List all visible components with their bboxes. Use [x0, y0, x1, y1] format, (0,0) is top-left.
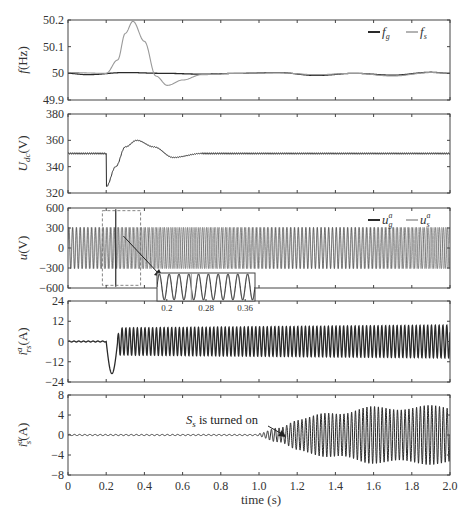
y-tick-label: 4 [58, 408, 64, 422]
axes-frame [68, 20, 450, 100]
y-tick-label: 600 [46, 201, 64, 215]
x-tick-label: 1.8 [404, 479, 419, 493]
series-f_s [68, 21, 450, 85]
inset-x-tick-label: 0.2 [161, 303, 172, 313]
series-i_rs [68, 325, 450, 373]
y-tick-label: 50.1 [43, 40, 64, 54]
y-axis-label: u(V) [15, 236, 30, 261]
y-tick-label: 8 [58, 388, 64, 402]
x-tick-label: 0 [65, 479, 71, 493]
series-i_s [68, 405, 450, 464]
y-tick-label: −600 [39, 281, 64, 295]
y-tick-label: 12 [52, 314, 64, 328]
y-tick-label: 380 [46, 107, 64, 121]
subplot-5: Ss is turned on840−4−8ias(A) [14, 388, 450, 482]
x-axis-label: time (s) [241, 492, 281, 507]
series-U_dc [68, 140, 450, 186]
y-tick-label: 0 [58, 428, 64, 442]
legend-f_s: fs [420, 24, 427, 41]
y-tick-label: 300 [46, 221, 64, 235]
y-tick-label: −8 [51, 468, 64, 482]
x-tick-label: 0.6 [175, 479, 190, 493]
x-tick-label: 1.0 [252, 479, 267, 493]
y-tick-label: −300 [39, 261, 64, 275]
plot-area [68, 325, 450, 373]
y-tick-label: 50.2 [43, 13, 64, 27]
legend-f_g: fg [382, 24, 390, 41]
x-tick-label: 0.2 [99, 479, 114, 493]
y-axis-label: Udc(V) [15, 136, 32, 172]
x-tick-label: 1.6 [366, 479, 381, 493]
annotation-ss-turned-on: Ss is turned on [186, 413, 259, 429]
subplot-4: 24120−12−24iars(A) [14, 294, 450, 389]
y-tick-label: 320 [46, 186, 64, 200]
y-tick-label: 360 [46, 133, 64, 147]
plot-area [68, 405, 450, 464]
plot-area [68, 140, 450, 186]
subplot-2: 380360340320Udc(V) [15, 107, 450, 200]
y-tick-label: −24 [45, 375, 64, 389]
y-tick-label: 49.9 [43, 93, 64, 107]
y-tick-label: 0 [58, 335, 64, 349]
y-tick-label: 0 [58, 241, 64, 255]
legend-u_s^a: uas [420, 211, 431, 229]
inset-zoom-plot: 0.20.280.36 [157, 273, 255, 313]
x-tick-label: 1.4 [328, 479, 343, 493]
y-tick-label: −12 [45, 355, 64, 369]
y-tick-label: 24 [52, 294, 64, 308]
x-tick-label: 2.0 [443, 479, 458, 493]
y-axis-label: iars(A) [14, 327, 33, 355]
figure: 50.250.15049.9f(Hz)fgfs380360340320Udc(V… [0, 0, 468, 508]
y-tick-label: −4 [51, 448, 64, 462]
x-tick-label: 0.8 [213, 479, 228, 493]
y-tick-label: 340 [46, 160, 64, 174]
inset-x-tick-label: 0.28 [198, 303, 214, 313]
y-tick-label: 50 [52, 66, 64, 80]
plot-area [68, 21, 450, 85]
subplot-1: 50.250.15049.9f(Hz)fgfs [15, 13, 450, 107]
x-tick-label: 1.2 [290, 479, 305, 493]
plot-area [68, 209, 450, 286]
inset-x-tick-label: 0.36 [237, 303, 253, 313]
legend-u_g^a: uag [382, 211, 393, 229]
y-axis-label: f(Hz) [15, 46, 30, 73]
y-axis-label: ias(A) [14, 423, 33, 448]
x-tick-label: 0.4 [137, 479, 152, 493]
